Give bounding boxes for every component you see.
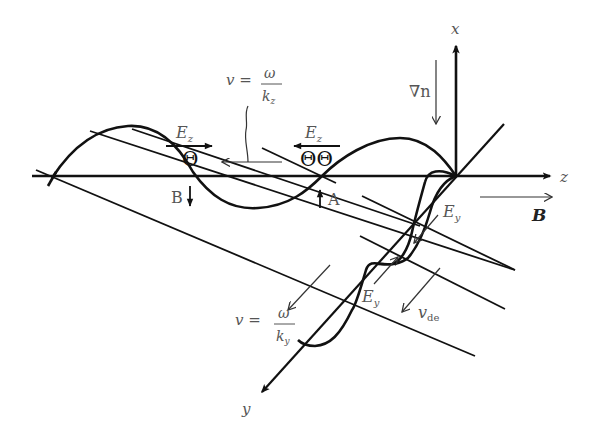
negative-charges-right: ΘΘ: [300, 147, 333, 171]
x-axis-label: x: [451, 20, 460, 38]
vde-label: vde: [418, 303, 439, 323]
grad-n-label: ∇n: [409, 82, 430, 101]
vz-lhs: v =: [226, 71, 252, 89]
density-gradient-arrow: ∇n: [409, 60, 436, 124]
magnetic-field-arrow: B: [480, 197, 552, 225]
phase-velocity-z: v = ω kz: [222, 65, 282, 162]
Ez-right-group: Ez ΘΘ: [294, 123, 340, 171]
point-B-label: B: [171, 188, 183, 207]
z-axis-label: z: [559, 168, 568, 186]
x-axis: x: [451, 20, 460, 176]
vy-numerator: ω: [278, 305, 290, 321]
vz-denominator: kz: [262, 88, 275, 106]
z-wave: [48, 126, 456, 208]
Ez-left-group: Ez Θ: [166, 123, 212, 171]
vy-denominator: ky: [276, 328, 290, 346]
y-axis-label: y: [241, 400, 251, 418]
Ez-left-label: Ez: [175, 123, 194, 144]
negative-charge-left: Θ: [182, 147, 198, 171]
vy-lhs: v =: [235, 311, 261, 329]
y-axis: y: [241, 124, 504, 418]
Ey-upper-label: Ey: [442, 202, 461, 223]
diamagnetic-drift-arrow: vde: [402, 268, 440, 323]
point-B: B: [171, 186, 190, 207]
drift-wave-diagram: z x y ∇n B Ez Θ: [0, 0, 595, 436]
point-A-label: A: [327, 190, 340, 209]
Ez-right-label: Ez: [304, 123, 323, 144]
Ey-lower-label: Ey: [361, 287, 380, 308]
wavefront-lines: [36, 129, 515, 356]
B-field-label: B: [531, 205, 546, 225]
vz-numerator: ω: [264, 65, 276, 81]
